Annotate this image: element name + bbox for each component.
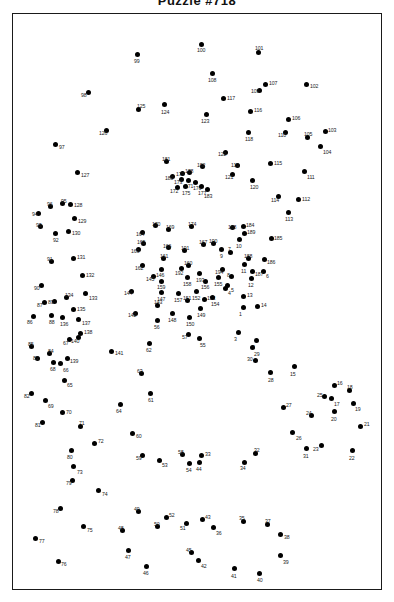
puzzle-dot[interactable] (185, 275, 190, 280)
puzzle-dot[interactable] (296, 197, 301, 202)
puzzle-dot[interactable] (196, 558, 201, 563)
puzzle-dot[interactable] (69, 448, 74, 453)
puzzle-dot[interactable] (281, 405, 286, 410)
puzzle-dot[interactable] (241, 305, 246, 310)
puzzle-dot[interactable] (250, 345, 255, 350)
puzzle-dot[interactable] (71, 256, 76, 261)
puzzle-dot[interactable] (130, 431, 135, 436)
puzzle-dot[interactable] (219, 247, 224, 252)
puzzle-dot[interactable] (249, 276, 254, 281)
puzzle-dot[interactable] (183, 184, 188, 189)
puzzle-dot[interactable] (187, 315, 192, 320)
puzzle-dot[interactable] (148, 391, 153, 396)
puzzle-dot[interactable] (56, 559, 61, 564)
puzzle-dot[interactable] (58, 361, 63, 366)
puzzle-dot[interactable] (81, 524, 86, 529)
puzzle-dot[interactable] (246, 130, 251, 135)
puzzle-dot[interactable] (202, 297, 207, 302)
puzzle-dot[interactable] (197, 271, 202, 276)
puzzle-dot[interactable] (199, 184, 204, 189)
puzzle-dot[interactable] (292, 364, 297, 369)
puzzle-dot[interactable] (68, 202, 73, 207)
puzzle-dot[interactable] (241, 294, 246, 299)
puzzle-dot[interactable] (278, 532, 283, 537)
puzzle-dot[interactable] (92, 441, 97, 446)
puzzle-dot[interactable] (250, 178, 255, 183)
puzzle-dot[interactable] (75, 170, 80, 175)
puzzle-dot[interactable] (200, 517, 205, 522)
puzzle-dot[interactable] (319, 443, 324, 448)
puzzle-dot[interactable] (159, 290, 164, 295)
puzzle-dot[interactable] (65, 356, 70, 361)
puzzle-dot[interactable] (126, 548, 131, 553)
puzzle-dot[interactable] (358, 424, 363, 429)
puzzle-dot[interactable] (255, 304, 260, 309)
puzzle-dot[interactable] (241, 224, 246, 229)
puzzle-dot[interactable] (286, 210, 291, 215)
puzzle-dot[interactable] (109, 349, 114, 354)
puzzle-dot[interactable] (159, 267, 164, 272)
puzzle-dot[interactable] (197, 460, 202, 465)
puzzle-dot[interactable] (302, 169, 307, 174)
puzzle-dot[interactable] (72, 216, 77, 221)
puzzle-dot[interactable] (170, 311, 175, 316)
puzzle-dot[interactable] (33, 536, 38, 541)
puzzle-dot[interactable] (323, 129, 328, 134)
puzzle-dot[interactable] (242, 231, 247, 236)
puzzle-dot[interactable] (351, 401, 356, 406)
puzzle-dot[interactable] (248, 109, 253, 114)
puzzle-dot[interactable] (51, 360, 56, 365)
puzzle-dot[interactable] (211, 525, 216, 530)
puzzle-dot[interactable] (76, 317, 81, 322)
puzzle-dot[interactable] (31, 314, 36, 319)
puzzle-dot[interactable] (205, 187, 210, 192)
puzzle-dot[interactable] (194, 289, 199, 294)
puzzle-dot[interactable] (232, 566, 237, 571)
puzzle-dot[interactable] (204, 112, 209, 117)
puzzle-dot[interactable] (187, 461, 192, 466)
puzzle-dot[interactable] (263, 82, 268, 87)
puzzle-dot[interactable] (83, 291, 88, 296)
puzzle-dot[interactable] (318, 144, 323, 149)
puzzle-dot[interactable] (198, 306, 203, 311)
puzzle-dot[interactable] (225, 283, 230, 288)
puzzle-dot[interactable] (71, 307, 76, 312)
puzzle-dot[interactable] (350, 448, 355, 453)
puzzle-dot[interactable] (80, 273, 85, 278)
puzzle-dot[interactable] (304, 446, 309, 451)
puzzle-dot[interactable] (60, 315, 65, 320)
puzzle-dot[interactable] (157, 458, 162, 463)
puzzle-dot[interactable] (176, 291, 181, 296)
puzzle-dot[interactable] (304, 82, 309, 87)
puzzle-dot[interactable] (162, 102, 167, 107)
puzzle-dot[interactable] (155, 318, 160, 323)
puzzle-dot[interactable] (144, 564, 149, 569)
puzzle-dot[interactable] (43, 398, 48, 403)
puzzle-dot[interactable] (254, 338, 259, 343)
puzzle-dot[interactable] (250, 269, 255, 274)
puzzle-dot[interactable] (199, 42, 204, 47)
puzzle-dot[interactable] (199, 453, 204, 458)
puzzle-dot[interactable] (242, 460, 247, 465)
puzzle-dot[interactable] (290, 430, 295, 435)
puzzle-dot[interactable] (71, 464, 76, 469)
puzzle-dot[interactable] (164, 515, 169, 520)
puzzle-dot[interactable] (66, 229, 71, 234)
puzzle-dot[interactable] (332, 383, 337, 388)
puzzle-dot[interactable] (147, 341, 152, 346)
puzzle-dot[interactable] (329, 396, 334, 401)
puzzle-dot[interactable] (210, 295, 215, 300)
puzzle-dot[interactable] (262, 257, 267, 262)
puzzle-dot[interactable] (237, 237, 242, 242)
puzzle-dot[interactable] (253, 358, 258, 363)
puzzle-dot[interactable] (221, 96, 226, 101)
puzzle-dot[interactable] (257, 571, 262, 576)
puzzle-dot[interactable] (216, 275, 221, 280)
puzzle-dot[interactable] (242, 262, 247, 267)
puzzle-dot[interactable] (197, 336, 202, 341)
puzzle-dot[interactable] (96, 488, 101, 493)
puzzle-dot[interactable] (268, 370, 273, 375)
puzzle-dot[interactable] (193, 180, 198, 185)
puzzle-dot[interactable] (62, 378, 67, 383)
puzzle-dot[interactable] (236, 330, 241, 335)
